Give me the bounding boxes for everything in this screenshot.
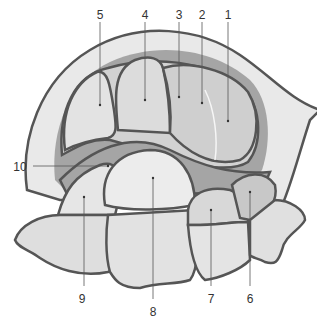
label-3: 3 <box>176 9 183 21</box>
bone-7-base <box>188 222 250 280</box>
label-8: 8 <box>150 306 157 318</box>
lobe-4 <box>116 58 170 133</box>
bone-8-base <box>106 210 197 288</box>
label-4: 4 <box>142 9 149 21</box>
label-6: 6 <box>247 293 254 305</box>
label-7: 7 <box>208 293 215 305</box>
label-10: 10 <box>13 161 26 173</box>
label-1: 1 <box>225 9 232 21</box>
anatomy-diagram <box>0 0 317 326</box>
label-2: 2 <box>199 9 206 21</box>
label-5: 5 <box>97 9 104 21</box>
label-9: 9 <box>79 293 86 305</box>
